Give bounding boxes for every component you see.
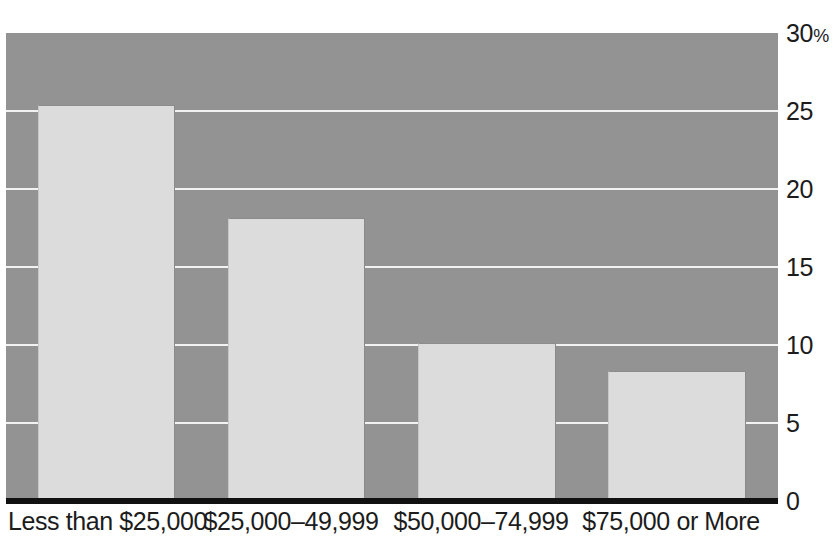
- x-tick-label-75000-or-more: $75,000 or More: [578, 506, 764, 536]
- y-axis: 30% 25 20 15 10 5 0: [786, 0, 832, 538]
- y-tick-label-20: 20: [786, 177, 832, 202]
- bar-75000-or-more: [608, 371, 746, 500]
- plot-area: [6, 33, 778, 500]
- x-axis-baseline: [6, 498, 778, 504]
- x-tick-label-50000-74999: $50,000–74,999: [388, 506, 574, 536]
- y-tick-label-5: 5: [786, 411, 832, 436]
- y-tick-label-15: 15: [786, 255, 832, 280]
- bar-chart-figure: 30% 25 20 15 10 5 0 Less than $25,000 $2…: [0, 0, 832, 538]
- bar-less-than-25000: [38, 105, 175, 500]
- x-axis: Less than $25,000 $25,000–49,999 $50,000…: [0, 506, 832, 538]
- bar-50000-74999: [418, 343, 556, 500]
- y-tick-label-30: 30%: [786, 21, 832, 49]
- x-tick-label-25000-49999: $25,000–49,999: [198, 506, 384, 536]
- y-tick-label-25: 25: [786, 99, 832, 124]
- x-tick-label-less-than-25000: Less than $25,000: [8, 506, 194, 536]
- bar-25000-49999: [228, 218, 365, 500]
- y-tick-label-10: 10: [786, 333, 832, 358]
